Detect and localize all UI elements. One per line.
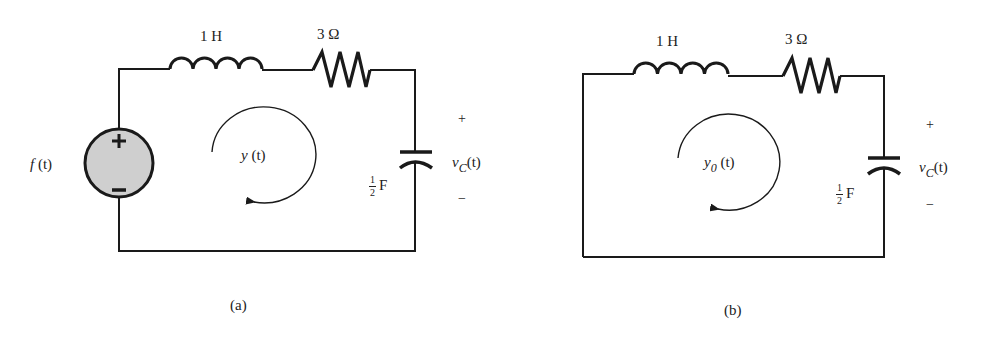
- voltage-b-arg: (t): [934, 159, 948, 175]
- wire-b-bottom: [583, 167, 884, 257]
- capacitor-b-unit: F: [846, 185, 854, 201]
- inductor-b-label: 1 H: [656, 34, 678, 49]
- loop-current-b-label: y0 (t): [704, 155, 735, 170]
- wire-b-right-top: [840, 76, 884, 158]
- circuit-diagrams: [0, 0, 985, 343]
- voltage-a-arg: (t): [467, 154, 481, 170]
- capacitor-a-fraction: 1 2: [369, 175, 376, 198]
- wire-a-left-top: [119, 69, 170, 128]
- voltage-a-plus: +: [458, 112, 466, 126]
- wire-b-left: [583, 74, 634, 257]
- voltage-b-plus: +: [926, 118, 934, 132]
- resistor-b-label: 3 Ω: [785, 32, 807, 47]
- capacitor-a-num: 1: [370, 175, 375, 185]
- source-a-arg: (t): [38, 156, 52, 172]
- capacitor-b-label: 1 2 F: [836, 183, 854, 206]
- voltage-a-sub: C: [459, 161, 467, 175]
- capacitor-b-den: 2: [837, 196, 842, 206]
- capacitor-a-unit: F: [379, 177, 387, 193]
- loop-current-b-var: y: [704, 154, 711, 170]
- source-a-label: f (t): [30, 157, 52, 172]
- loop-current-a-arg: (t): [251, 147, 265, 163]
- loop-current-b-arg: (t): [720, 154, 734, 170]
- voltage-b-var: v: [919, 159, 926, 175]
- resistor-a: [313, 52, 370, 87]
- loop-current-a-label: y (t): [241, 148, 266, 163]
- circuit-b: [583, 58, 900, 257]
- capacitor-b-fraction: 1 2: [836, 183, 843, 206]
- capacitor-a-den: 2: [370, 188, 375, 198]
- wire-a-right-top: [370, 70, 415, 152]
- resistor-a-label: 3 Ω: [317, 27, 339, 42]
- inductor-b: [634, 63, 728, 74]
- voltage-b-sub: C: [926, 166, 934, 180]
- voltage-a-var: v: [452, 154, 459, 170]
- inductor-a: [170, 58, 262, 69]
- voltage-a-label: vC(t): [452, 155, 481, 170]
- voltage-a-minus: −: [458, 192, 466, 206]
- voltage-b-minus: −: [926, 198, 934, 212]
- loop-current-b-sub: 0: [711, 161, 717, 175]
- source-a-fn: f: [30, 156, 34, 172]
- capacitor-a-label: 1 2 F: [369, 175, 387, 198]
- caption-b: (b): [724, 303, 742, 318]
- voltage-b-label: vC(t): [919, 160, 948, 175]
- capacitor-b-num: 1: [837, 183, 842, 193]
- resistor-b: [783, 58, 840, 93]
- inductor-a-label: 1 H: [200, 29, 222, 44]
- caption-a: (a): [230, 298, 247, 313]
- loop-current-a-var: y: [241, 147, 248, 163]
